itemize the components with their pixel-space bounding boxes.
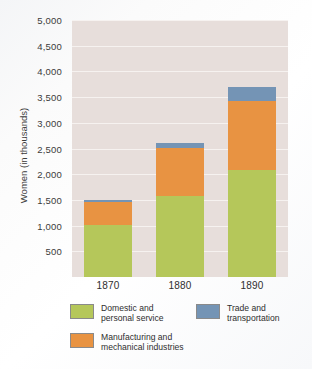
x-axis-tick-1870: 1870 <box>73 280 143 291</box>
legend-label-domestic: Domestic andpersonal service <box>101 303 164 324</box>
legend-column-left: Domestic andpersonal service Manufacturi… <box>70 303 196 361</box>
x-axis-tick-1880: 1880 <box>145 280 215 291</box>
blue-swatch-icon <box>196 304 220 319</box>
gridline <box>72 71 288 72</box>
y-axis-tick-labels: 5001,0001,5002,0002,5003,0003,5004,0004,… <box>0 20 68 277</box>
y-axis-tick: 1,500 <box>37 194 62 205</box>
legend-item-domestic[interactable]: Domestic andpersonal service <box>70 303 196 324</box>
green-swatch-icon <box>70 304 94 319</box>
y-axis-tick: 500 <box>46 246 62 257</box>
legend-label-trade: Trade andtransportation <box>227 303 280 324</box>
y-axis-tick: 3,000 <box>37 117 62 128</box>
bar-segment <box>84 202 132 225</box>
bar-segment <box>228 170 276 277</box>
y-axis-tick: 4,500 <box>37 40 62 51</box>
orange-swatch-icon <box>70 333 94 348</box>
gridline <box>72 20 288 21</box>
bar-segment <box>228 101 276 170</box>
y-axis-tick: 5,000 <box>37 15 62 26</box>
bar-segment <box>156 196 204 277</box>
x-axis-tick-1890: 1890 <box>217 280 287 291</box>
legend-label-manufacturing: Manufacturing andmechanical industries <box>101 332 184 353</box>
y-axis-tick: 2,500 <box>37 143 62 154</box>
bar-segment <box>156 148 204 196</box>
legend-column-right: Trade andtransportation <box>196 303 306 332</box>
bar-1890[interactable] <box>228 87 276 277</box>
bar-1880[interactable] <box>156 143 204 277</box>
bar-1870[interactable] <box>84 200 132 277</box>
y-axis-tick: 2,000 <box>37 169 62 180</box>
y-axis-tick: 3,500 <box>37 92 62 103</box>
y-axis-tick: 1,000 <box>37 220 62 231</box>
x-axis-tick-labels: 187018801890 <box>72 280 288 296</box>
gridline <box>72 46 288 47</box>
bar-segment <box>84 225 132 277</box>
bar-segment <box>228 87 276 101</box>
legend-item-trade[interactable]: Trade andtransportation <box>196 303 306 324</box>
y-axis-tick: 4,000 <box>37 66 62 77</box>
stacked-bar-chart-figure: Women (in thousands) 5001,0001,5002,0002… <box>0 0 312 369</box>
plot-area <box>72 20 288 277</box>
legend-item-manufacturing[interactable]: Manufacturing andmechanical industries <box>70 332 196 353</box>
